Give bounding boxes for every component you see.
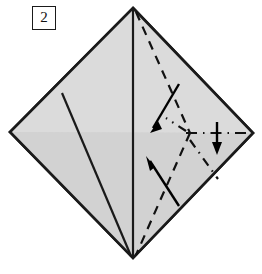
origami-diagram-canvas <box>0 0 262 274</box>
origami-figure: 2 <box>0 0 262 274</box>
step-number-badge: 2 <box>32 6 56 30</box>
